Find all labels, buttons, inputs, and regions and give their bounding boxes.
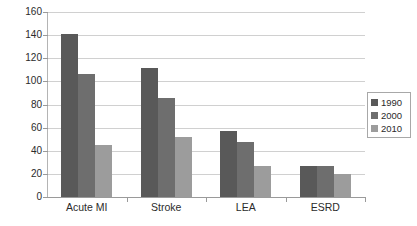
bar xyxy=(78,74,95,197)
y-tick-mark xyxy=(43,151,48,152)
bar xyxy=(317,166,334,197)
x-tick-label: LEA xyxy=(206,201,286,213)
x-tick-mark xyxy=(206,197,207,202)
bar xyxy=(61,34,78,197)
y-tick-mark xyxy=(43,35,48,36)
y-tick-label: 40 xyxy=(8,146,42,156)
bar xyxy=(220,131,237,197)
bar xyxy=(158,98,175,197)
y-tick-label: 100 xyxy=(8,76,42,86)
y-tick-label: 80 xyxy=(8,100,42,110)
bar-chart: 020406080100120140160 Acute MIStrokeLEAE… xyxy=(0,0,417,226)
y-tick-label: 120 xyxy=(8,53,42,63)
legend-label: 2010 xyxy=(381,124,402,134)
x-tick-label: Stroke xyxy=(127,201,207,213)
y-tick-mark xyxy=(43,174,48,175)
y-tick-mark xyxy=(43,128,48,129)
bar xyxy=(95,145,112,197)
legend-swatch-icon xyxy=(371,125,378,132)
y-tick-mark xyxy=(43,58,48,59)
y-tick-mark xyxy=(43,81,48,82)
bar xyxy=(334,174,351,197)
bar-group xyxy=(141,12,192,197)
bar xyxy=(237,142,254,198)
plot-area xyxy=(47,12,365,197)
bar xyxy=(141,68,158,198)
x-tick-mark xyxy=(286,197,287,202)
bar xyxy=(175,137,192,197)
y-tick-label: 140 xyxy=(8,30,42,40)
y-axis-labels: 020406080100120140160 xyxy=(0,0,42,226)
bar-group xyxy=(61,12,112,197)
x-tick-mark xyxy=(365,197,366,202)
bar-group xyxy=(220,12,271,197)
bar xyxy=(254,166,271,197)
y-tick-label: 20 xyxy=(8,169,42,179)
legend-swatch-icon xyxy=(371,99,378,106)
y-tick-label: 160 xyxy=(8,7,42,17)
bar xyxy=(300,166,317,197)
legend-label: 2000 xyxy=(381,111,402,121)
x-tick-mark xyxy=(127,197,128,202)
bar-group xyxy=(300,12,351,197)
x-tick-label: ESRD xyxy=(286,201,366,213)
legend-label: 1990 xyxy=(381,98,402,108)
y-tick-mark xyxy=(43,105,48,106)
x-axis-labels: Acute MIStrokeLEAESRD xyxy=(47,201,365,221)
y-tick-label: 0 xyxy=(8,192,42,202)
y-tick-mark xyxy=(43,12,48,13)
legend-item-2000[interactable]: 2000 xyxy=(371,109,410,122)
chart-legend: 199020002010 xyxy=(367,92,411,138)
y-tick-mark xyxy=(43,197,48,198)
legend-item-1990[interactable]: 1990 xyxy=(371,96,410,109)
x-tick-label: Acute MI xyxy=(47,201,127,213)
legend-swatch-icon xyxy=(371,112,378,119)
legend-item-2010[interactable]: 2010 xyxy=(371,122,410,135)
y-tick-label: 60 xyxy=(8,123,42,133)
